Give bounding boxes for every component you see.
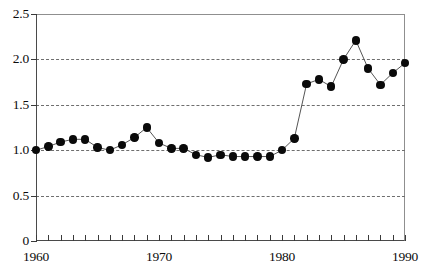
y-tick-label-0: 0: [22, 233, 29, 249]
x-tick-label-1980: 1980: [269, 249, 295, 265]
data-point: [253, 152, 261, 160]
y-tick-label-2.5: 2.5: [13, 6, 29, 22]
data-series-line: [36, 14, 405, 241]
data-point: [179, 144, 187, 152]
data-point: [81, 135, 89, 143]
data-point: [376, 81, 384, 89]
data-point: [93, 143, 101, 151]
data-point: [389, 69, 397, 77]
data-point: [56, 138, 64, 146]
chart-figure: 00.51.01.52.02.5 1960197019801990: [0, 0, 421, 278]
data-point: [401, 59, 409, 67]
x-tick-1990: [405, 235, 406, 241]
y-tick-label-1.0: 1.0: [13, 142, 29, 158]
y-tick-label-1.5: 1.5: [13, 97, 29, 113]
data-point: [216, 151, 224, 159]
data-point: [315, 75, 323, 83]
data-point: [339, 55, 347, 63]
x-tick-label-1990: 1990: [392, 249, 418, 265]
x-tick-label-1970: 1970: [146, 249, 172, 265]
data-point: [290, 134, 298, 142]
y-tick-0: [31, 241, 37, 242]
data-point: [266, 152, 274, 160]
data-point: [192, 151, 200, 159]
data-point: [69, 135, 77, 143]
y-tick-label-0.5: 0.5: [13, 188, 29, 204]
plot-area: 00.51.01.52.02.5 1960197019801990: [36, 14, 405, 241]
data-point: [352, 36, 360, 44]
data-point: [241, 152, 249, 160]
data-point: [143, 123, 151, 131]
data-point: [130, 133, 138, 141]
data-point: [302, 80, 310, 88]
x-tick-label-1960: 1960: [23, 249, 49, 265]
data-point: [167, 144, 175, 152]
data-point: [229, 152, 237, 160]
data-point: [44, 142, 52, 150]
data-point: [364, 64, 372, 72]
y-tick-label-2.0: 2.0: [13, 51, 29, 67]
data-point: [204, 153, 212, 161]
caption-strip: [0, 271, 421, 278]
